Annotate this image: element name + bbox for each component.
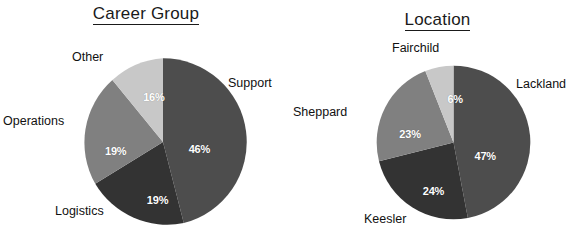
pie-svg-location bbox=[370, 59, 537, 226]
chart-panel-career-group: Career Group 46% 19% 19% 16% Support Log… bbox=[0, 0, 292, 245]
pie-value-support: 46% bbox=[189, 143, 210, 155]
pie-label-sheppard: Sheppard bbox=[293, 105, 347, 119]
pie-value-sheppard: 23% bbox=[399, 128, 420, 140]
pie-chart-location: 47% 24% 23% 6% bbox=[370, 59, 537, 226]
pie-value-keesler: 24% bbox=[423, 185, 444, 197]
pie-value-operations: 19% bbox=[105, 145, 126, 157]
chart-title-career-group-text: Career Group bbox=[93, 4, 199, 25]
pie-value-other: 16% bbox=[143, 91, 164, 103]
pie-value-fairchild: 6% bbox=[447, 93, 463, 105]
pie-value-lackland: 47% bbox=[475, 150, 496, 162]
pie-label-logistics: Logistics bbox=[55, 204, 104, 218]
pie-label-support: Support bbox=[228, 76, 272, 90]
chart-title-location: Location bbox=[292, 10, 583, 30]
pie-charts-figure: Career Group 46% 19% 19% 16% Support Log… bbox=[0, 0, 583, 245]
pie-label-keesler: Keesler bbox=[364, 212, 406, 226]
chart-title-location-text: Location bbox=[405, 10, 471, 31]
chart-title-career-group: Career Group bbox=[0, 4, 292, 24]
pie-value-logistics: 19% bbox=[147, 194, 168, 206]
pie-label-operations: Operations bbox=[3, 114, 64, 128]
pie-label-lackland: Lackland bbox=[516, 77, 566, 91]
chart-panel-location: Location 47% 24% 23% 6% Lackland Keesler… bbox=[292, 0, 583, 245]
pie-label-other: Other bbox=[72, 50, 103, 64]
pie-label-fairchild: Fairchild bbox=[392, 41, 439, 55]
